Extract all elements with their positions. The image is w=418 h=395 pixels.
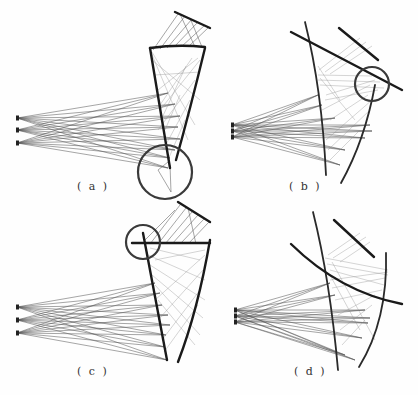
fan-ray [153,14,178,50]
light-ray [235,295,335,310]
reflected-ray [326,100,372,140]
point-source [234,314,237,319]
reflected-ray [332,262,375,340]
light-ray [235,295,335,322]
fan-ray [188,27,209,47]
point-source [231,135,234,140]
light-ray [17,93,168,118]
diagram-svg [0,0,418,395]
light-ray [17,283,155,320]
reflected-ray [160,58,192,105]
reflected-ray [155,250,205,260]
panel-label-a: ( a ) [77,180,109,193]
point-source [231,123,234,128]
reflected-ray [340,242,370,262]
point-source [16,128,19,133]
panel-label-d: ( d ) [294,365,327,378]
point-source [231,129,234,134]
mirror-surface [341,85,375,183]
reflected-ray [325,258,388,270]
reflected-ray [342,320,365,345]
reflected-ray [330,270,384,285]
reflected-ray [318,66,340,100]
mirror-surface [334,220,374,257]
fan-ray [165,212,192,244]
point-source [16,116,19,121]
point-source [16,141,19,146]
reflected-ray [165,95,180,130]
light-ray [17,333,165,347]
panel-d [234,212,402,370]
mirror-surface [291,32,402,90]
point-source [234,320,237,325]
light-ray [17,283,155,307]
reflected-ray [318,75,372,76]
fan-ray [150,205,180,244]
light-ray [235,283,330,316]
reflected-ray [330,130,360,160]
point-source [16,305,19,310]
optical-diagram-figure: ( a ) ( b ) ( c ) ( d ) [0,0,418,395]
reflected-ray [325,90,378,100]
light-ray [17,333,167,360]
light-ray [232,137,345,150]
reflected-ray [320,78,355,120]
fan-ray [160,16,185,49]
highlight-circle [138,145,192,199]
reflected-ray [148,255,205,280]
panel-label-b: ( b ) [289,180,322,193]
mirror-surface [176,48,205,160]
fan-ray [188,222,209,244]
mirror-surface [150,46,205,48]
fan-ray [145,210,175,240]
panel-c [16,202,210,362]
light-ray [235,283,330,322]
panel-a [16,12,210,199]
light-ray [17,293,160,307]
reflected-ray [158,58,198,90]
panel-label-c: ( c ) [77,365,109,378]
reflected-ray [160,60,200,110]
panel-b [231,22,402,183]
point-source [16,331,19,336]
point-source [16,318,19,323]
mirror-surface [175,12,210,28]
point-source [234,308,237,313]
reflected-ray [164,305,198,352]
